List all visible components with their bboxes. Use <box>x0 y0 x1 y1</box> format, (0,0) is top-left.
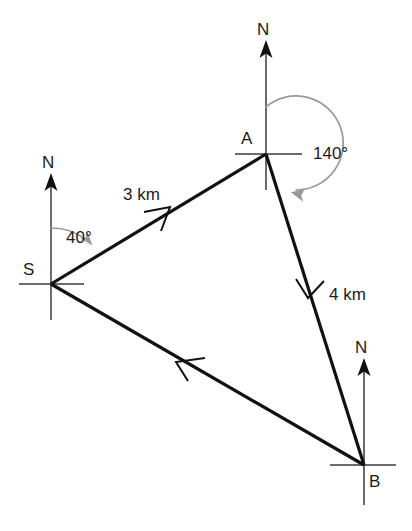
north-label-s: N <box>42 153 54 172</box>
distance-label-a-to-b: 4 km <box>329 285 366 304</box>
point-label-a: A <box>241 129 253 148</box>
bearing-diagram: N N N 140° 40° <box>0 0 412 531</box>
north-label-a: N <box>257 20 269 39</box>
angle-label-40: 40° <box>66 228 92 247</box>
angle-label-140: 140° <box>313 144 348 163</box>
diagram-background <box>0 0 412 531</box>
point-label-b: B <box>369 472 380 491</box>
bearing-diagram-canvas: N N N 140° 40° <box>0 0 412 531</box>
north-label-b: N <box>355 338 367 357</box>
distance-label-s-to-a: 3 km <box>123 185 160 204</box>
point-label-s: S <box>23 260 34 279</box>
